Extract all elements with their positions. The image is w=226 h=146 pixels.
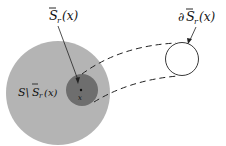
svg-text:(x): (x) — [44, 87, 58, 98]
svg-text:(x): (x) — [62, 9, 78, 23]
boundary-circle — [166, 43, 199, 76]
point-label: x — [78, 94, 82, 102]
boundary-pointer-line — [190, 27, 196, 40]
center-point — [80, 89, 82, 91]
label-complement: S\ S r (x) — [18, 84, 58, 100]
svg-text:(x): (x) — [199, 10, 215, 24]
svg-text:S\: S\ — [18, 86, 29, 99]
svg-text:∂: ∂ — [178, 10, 184, 24]
label-s-bar: S r (x) — [49, 8, 78, 25]
label-boundary: ∂ S r (x) — [178, 9, 215, 26]
diagram-canvas: x S r (x) ∂ S r (x) S\ S r (x) — [0, 0, 226, 146]
